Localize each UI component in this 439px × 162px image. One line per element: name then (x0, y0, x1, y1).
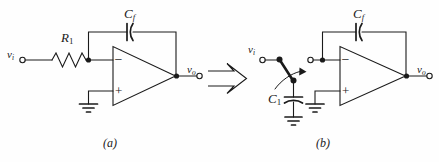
switch-sampling[interactable] (275, 57, 307, 90)
subcaption-a: (a) (103, 137, 117, 149)
output-label-a: vo (187, 64, 196, 77)
input-label-a: vi (7, 49, 14, 62)
circuit-a-group (20, 24, 202, 113)
opamp-inverting-sign-a: − (115, 53, 123, 67)
capacitor-cf-b[interactable] (356, 24, 362, 41)
ground-symbol-b (306, 104, 324, 112)
circuit-schematic-canvas: .w { stroke:#1a1a1a; stroke-width:1.1; f… (0, 0, 439, 162)
opamp-noninverting-sign-b: + (342, 84, 349, 97)
capacitor-cf-a[interactable] (127, 24, 133, 41)
resistor-r1[interactable] (52, 53, 86, 67)
input-label-b: vi (248, 44, 255, 57)
output-terminal-a[interactable] (197, 73, 202, 78)
wire-feedback-right-b (362, 32, 406, 76)
wire-feedback-left-b (323, 32, 357, 60)
ground-symbol-a (80, 104, 98, 112)
input-terminal-a[interactable] (20, 57, 25, 62)
capacitor-label-c1: C1 (268, 92, 281, 107)
wire-feedback-right-a (133, 32, 176, 76)
input-terminal-b[interactable] (260, 57, 265, 62)
opamp-b[interactable] (340, 47, 406, 106)
capacitor-label-cf-a: Cf (124, 7, 135, 22)
opamp-noninverting-sign-a: + (115, 84, 122, 97)
opamp-inverting-sign-b: − (342, 53, 350, 67)
subcaption-b: (b) (316, 137, 330, 149)
wire-noninverting-to-ground-b (315, 91, 340, 104)
capacitor-label-cf-b: Cf (353, 7, 364, 22)
resistor-label-r1: R1 (61, 31, 73, 46)
opamp-input-terminal-b[interactable] (308, 57, 313, 62)
wire-noninverting-to-ground-a (89, 91, 114, 104)
output-terminal-b[interactable] (427, 73, 432, 78)
output-node-dot-b (404, 73, 409, 78)
equivalence-arrow (208, 64, 247, 94)
circuit-b-group (260, 24, 432, 126)
ground-symbol-c1-b (285, 117, 302, 125)
figure-container: .w { stroke:#1a1a1a; stroke-width:1.1; f… (0, 0, 439, 162)
output-label-b: vo (417, 64, 426, 77)
output-node-dot-a (174, 73, 179, 78)
